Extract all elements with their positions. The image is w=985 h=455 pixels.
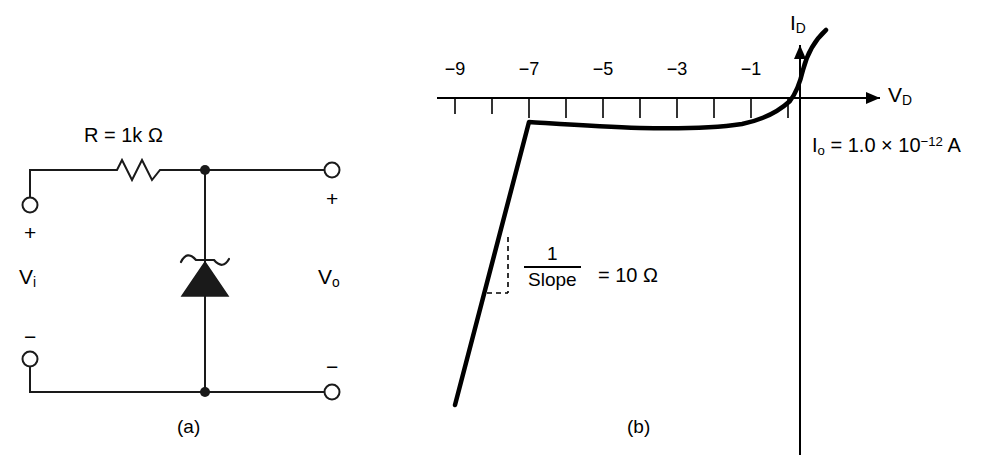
slope-fraction-numerator: 1: [524, 243, 581, 266]
x-tick-label-minus5: −5: [588, 60, 618, 78]
x-axis-symbol: V: [888, 83, 902, 106]
output-voltage-subscript: o: [332, 274, 340, 290]
figure-vector-layer: [0, 0, 985, 455]
input-minus-sign: −: [24, 326, 36, 347]
wire-input-top: [30, 170, 110, 212]
io-unit: A: [943, 134, 961, 156]
terminal-output-positive: [325, 163, 340, 178]
input-voltage-label: Vi: [19, 266, 36, 290]
diode-triangle: [182, 262, 228, 296]
terminal-input-positive: [23, 198, 38, 213]
io-exponent: −12: [921, 134, 943, 149]
x-tick-label-minus3: −3: [662, 60, 692, 78]
resistor-symbol: [110, 160, 168, 180]
y-axis-label: ID: [790, 12, 806, 36]
output-minus-sign: −: [326, 356, 338, 377]
reverse-saturation-current-annotation: Io = 1.0 × 10−12 A: [812, 135, 961, 158]
output-plus-sign: +: [326, 188, 338, 209]
slope-fraction-denominator: Slope: [524, 268, 581, 291]
panel-b-caption: (b): [627, 417, 650, 436]
slope-resistance-value: = 10 Ω: [598, 265, 658, 285]
x-axis-label: VD: [888, 84, 912, 108]
junction-dot-top: [200, 165, 210, 175]
input-plus-sign: +: [24, 222, 36, 243]
x-tick-label-minus7: −7: [514, 60, 544, 78]
resistor-label: R = 1k Ω: [84, 125, 163, 145]
chart-panel: [437, 30, 880, 455]
output-voltage-symbol: V: [318, 265, 332, 288]
x-axis-subscript: D: [902, 92, 912, 108]
x-axis-arrowhead: [866, 92, 880, 104]
panel-a-caption: (a): [177, 417, 200, 436]
terminal-input-negative: [23, 352, 38, 367]
wire-input-bottom: [30, 352, 205, 392]
slope-fraction: 1 Slope: [524, 243, 581, 291]
figure-container: R = 1k Ω + Vi − + Vo − (a) VD ID −9 −7 −…: [0, 0, 985, 455]
x-tick-label-minus1: −1: [736, 60, 766, 78]
input-voltage-subscript: i: [33, 274, 36, 290]
x-tick-label-minus9: −9: [440, 60, 470, 78]
terminal-output-negative: [325, 385, 340, 400]
x-axis-ticks: [455, 98, 788, 118]
circuit-panel: [23, 160, 340, 400]
io-subscript: o: [818, 143, 825, 158]
y-axis-subscript: D: [796, 20, 806, 36]
input-voltage-symbol: V: [19, 265, 33, 288]
output-voltage-label: Vo: [318, 266, 340, 290]
y-axis-arrowhead: [794, 45, 806, 59]
io-value: = 1.0 × 10: [825, 134, 921, 156]
iv-characteristic-curve: [455, 30, 826, 405]
junction-dot-bottom: [200, 387, 210, 397]
